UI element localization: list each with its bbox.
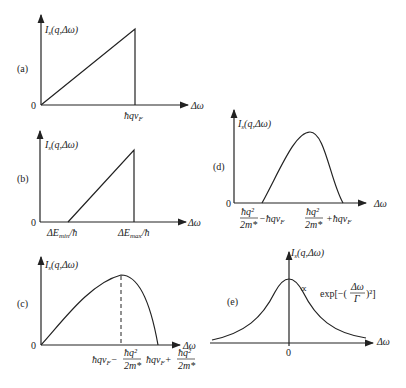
svg-text:2m*: 2m* [124,360,141,371]
origin-label: 0 [226,198,231,209]
x-tick-min: ΔEmin/ħ [46,227,77,240]
svg-text:2m*: 2m* [178,360,195,371]
svg-text:Δω: Δω [350,281,364,292]
svg-text:ħq²: ħq² [241,206,255,217]
y-axis-label: Is(q,Δω) [44,139,79,152]
origin-label: 0 [31,100,36,111]
svg-text:2m*: 2m* [305,219,322,230]
gaussian-formula: exp[−( Δω Γ )²] [320,281,376,304]
panel-a: Is(q,Δω) (a) 0 Δω ħqvF [17,15,204,123]
x-axis-label: Δω [373,198,387,209]
panel-label: (a) [17,63,28,75]
panel-d: Is(q,Δω) (d) 0 Δω ħq² 2m* −ħqvF ħq² 2m* … [213,110,387,230]
x-tick-1: ħqvF− ħq² 2m* [92,347,141,371]
svg-text:)²]: )²] [366,288,376,300]
panel-b: Is(q,Δω) (b) 0 Δω ΔEmin/ħ ΔEmax/ħ [17,131,201,240]
x-tick-2: ħq² 2m* +ħqvF [305,206,352,230]
x-tick-zero: 0 [286,347,291,358]
panel-label: (c) [17,298,28,310]
curve [68,150,134,222]
x-tick-label: ħqvF [124,110,143,123]
svg-text:ħqvF+: ħqvF+ [146,354,171,367]
curve [41,29,135,105]
svg-text:−ħqvF: −ħqvF [259,213,285,226]
svg-text:ħq²: ħq² [306,206,320,217]
panel-label: (e) [227,296,238,308]
x-axis-label: Δω [190,100,204,111]
y-axis-label: Is(q,Δω) [290,247,325,260]
proportional-symbol: ∝ [300,283,307,294]
origin-label: 0 [31,217,36,228]
svg-text:ħq²: ħq² [178,347,192,358]
x-tick-1: ħq² 2m* −ħqvF [240,206,285,230]
svg-text:Γ: Γ [353,293,360,304]
origin-label: 0 [31,340,36,351]
x-tick-2: ħqvF+ ħq² 2m* [146,347,195,371]
x-axis-label: Δω [187,217,201,228]
x-axis-label: Δω [376,336,390,347]
panel-c: Is(q,Δω) (c) 0 Δω ħqvF− ħq² 2m* ħqvF+ ħq… [17,257,196,371]
panel-label: (d) [213,161,225,173]
y-axis-label: Is(q,Δω) [237,118,272,131]
y-axis-label: Is(q,Δω) [44,24,79,37]
panel-label: (b) [17,173,29,185]
svg-text:ħq²: ħq² [124,347,138,358]
figure-canvas: Is(q,Δω) (a) 0 Δω ħqvF Is(q,Δω) (b) 0 Δω… [0,0,406,388]
panel-e: Is(q,Δω) (e) 0 Δω ∝ exp[−( Δω Γ )²] [210,247,390,358]
svg-text:2m*: 2m* [240,219,257,230]
curve [41,275,158,345]
svg-text:ħqvF−: ħqvF− [92,354,117,367]
x-tick-max: ΔEmax/ħ [117,227,149,240]
svg-text:+ħqvF: +ħqvF [326,213,352,226]
y-axis-label: Is(q,Δω) [44,259,79,272]
svg-text:exp[−(: exp[−( [320,288,347,300]
curve [262,132,343,203]
